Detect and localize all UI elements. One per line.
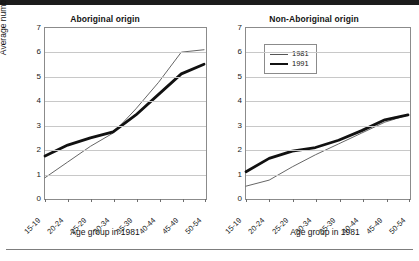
y-tick-label: 5 bbox=[238, 73, 242, 81]
x-tick bbox=[340, 199, 341, 202]
x-tick bbox=[269, 199, 270, 202]
y-tick-label: 0 bbox=[238, 195, 242, 203]
gridline bbox=[246, 77, 410, 78]
y-tick-label: 0 bbox=[37, 195, 41, 203]
legend-label-1981: 1981 bbox=[292, 49, 309, 59]
plot-area-left: 0123456715-1920-2425-2930-3435-3940-4445… bbox=[44, 27, 207, 200]
series-line-1991 bbox=[246, 115, 408, 172]
x-tick bbox=[91, 199, 92, 202]
x-tick bbox=[183, 199, 184, 202]
y-tick-label: 3 bbox=[37, 122, 41, 130]
figure: Aboriginal origin Average number of chil… bbox=[0, 5, 419, 248]
series-lines-left bbox=[45, 28, 206, 199]
panel-non-aboriginal-origin: Non-Aboriginal origin 1981 1991 01234567… bbox=[209, 5, 419, 248]
gridline bbox=[246, 150, 410, 151]
x-tick bbox=[137, 199, 138, 202]
x-tick bbox=[45, 199, 46, 202]
series-line-1991 bbox=[45, 64, 204, 156]
gridline bbox=[45, 150, 206, 151]
y-tick-label: 7 bbox=[37, 24, 41, 32]
gridline bbox=[246, 126, 410, 127]
legend: 1981 1991 bbox=[264, 44, 317, 74]
y-tick-label: 2 bbox=[238, 146, 242, 154]
gridline bbox=[45, 175, 206, 176]
gridline bbox=[246, 52, 410, 53]
x-axis-title-right: Age group in 1981 bbox=[209, 227, 419, 237]
x-tick bbox=[114, 199, 115, 202]
y-tick-label: 7 bbox=[238, 24, 242, 32]
y-tick-label: 1 bbox=[238, 171, 242, 179]
legend-swatch-1981-icon bbox=[270, 54, 288, 55]
gridline bbox=[45, 126, 206, 127]
panel-aboriginal-origin: Aboriginal origin Average number of chil… bbox=[0, 5, 210, 248]
y-tick-label: 5 bbox=[37, 73, 41, 81]
x-tick bbox=[68, 199, 69, 202]
gridline bbox=[45, 52, 206, 53]
y-tick-label: 4 bbox=[37, 97, 41, 105]
x-tick bbox=[160, 199, 161, 202]
panel-title-left: Aboriginal origin bbox=[0, 14, 210, 24]
x-tick bbox=[409, 199, 410, 202]
legend-item-1991: 1991 bbox=[270, 59, 309, 69]
y-tick-label: 2 bbox=[37, 146, 41, 154]
gridline bbox=[246, 175, 410, 176]
legend-item-1981: 1981 bbox=[270, 49, 309, 59]
y-tick-label: 1 bbox=[37, 171, 41, 179]
y-tick-label: 6 bbox=[37, 48, 41, 56]
y-tick-label: 6 bbox=[238, 48, 242, 56]
x-tick bbox=[246, 199, 247, 202]
y-tick-label: 3 bbox=[238, 122, 242, 130]
y-tick-label: 4 bbox=[238, 97, 242, 105]
gridline bbox=[246, 101, 410, 102]
y-axis-title: Average number of children bbox=[0, 0, 8, 63]
x-tick bbox=[316, 199, 317, 202]
x-tick bbox=[363, 199, 364, 202]
x-tick bbox=[387, 199, 388, 202]
x-axis-title-left: Age group in 1981 bbox=[0, 227, 210, 237]
gridline bbox=[45, 101, 206, 102]
x-tick bbox=[205, 199, 206, 202]
x-tick bbox=[293, 199, 294, 202]
series-line-1981 bbox=[45, 50, 204, 178]
legend-label-1991: 1991 bbox=[292, 59, 309, 69]
plot-area-right: 1981 1991 0123456715-1920-2425-2930-3435… bbox=[245, 27, 411, 200]
legend-swatch-1991-icon bbox=[270, 63, 288, 66]
gridline bbox=[45, 77, 206, 78]
footer-divider bbox=[6, 249, 413, 250]
